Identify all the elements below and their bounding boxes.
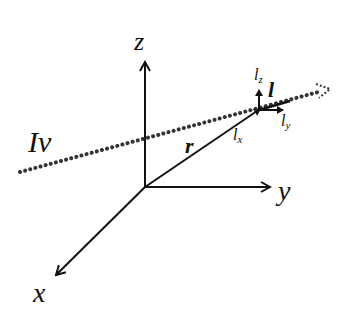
- intensity-ray: [20, 91, 322, 172]
- r-label: r: [185, 133, 194, 158]
- lx-label: lx: [233, 126, 242, 145]
- ly-label: ly: [281, 112, 290, 131]
- coordinate-diagram: z y x Iν r l lz ly lx: [0, 0, 351, 315]
- intensity-label: Iν: [27, 125, 52, 158]
- x-axis: [56, 187, 145, 275]
- l-label: l: [268, 77, 275, 102]
- z-label: z: [133, 27, 144, 56]
- x-label: x: [32, 277, 46, 308]
- y-label: y: [275, 175, 291, 206]
- diagram-canvas: z y x Iν r l lz ly lx: [0, 0, 351, 315]
- r-vector: [145, 109, 260, 187]
- lz-label: lz: [254, 66, 263, 85]
